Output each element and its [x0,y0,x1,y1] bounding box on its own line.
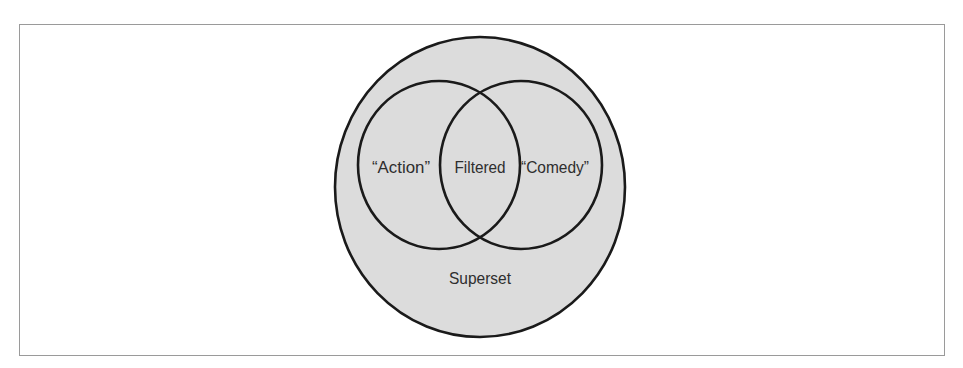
action-label: “Action” [372,158,430,177]
filtered-label: Filtered [455,158,506,177]
superset-label: Superset [449,269,511,288]
venn-diagram: “Action” Filtered “Comedy” Superset [0,0,963,368]
superset-circle [335,37,625,337]
comedy-label: “Comedy” [521,158,589,177]
